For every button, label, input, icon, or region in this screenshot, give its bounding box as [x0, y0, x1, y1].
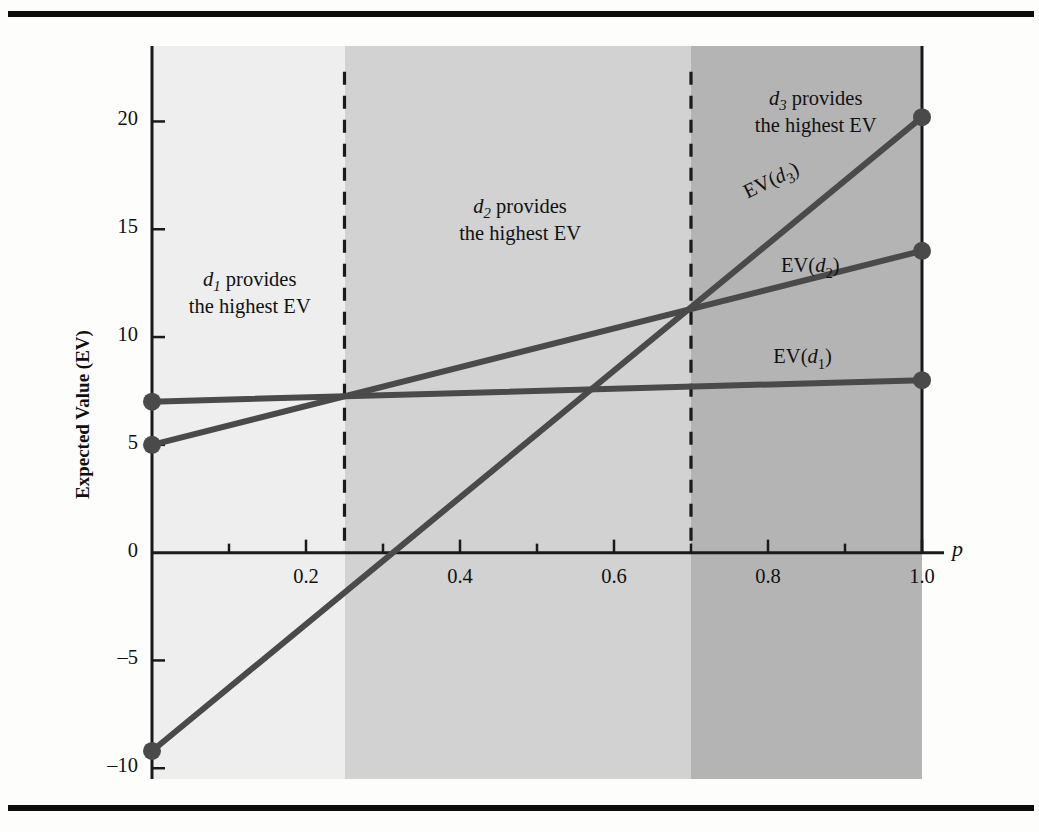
endpoint-dot-right-EVd3 — [913, 108, 931, 126]
y-tick-label: 5 — [128, 431, 138, 454]
label-ev-d1-suffix: ) — [825, 345, 832, 367]
annotation-d2-subscript: 2 — [484, 205, 491, 221]
endpoint-dot-left-EVd1 — [143, 393, 161, 411]
chart-svg — [152, 46, 922, 779]
endpoint-dot-right-EVd1 — [913, 371, 931, 389]
label-ev-d1: EV(d1) — [773, 345, 832, 372]
x-tick-label: 0.6 — [601, 565, 627, 588]
endpoint-dot-left-EVd3 — [143, 742, 161, 760]
x-tick-label: 1.0 — [909, 565, 935, 588]
annotation-d1-symbol: d — [203, 268, 213, 290]
bottom-rule — [8, 805, 1034, 811]
y-axis-label: Expected Value (EV) — [72, 330, 94, 499]
label-ev-d1-sub: 1 — [818, 355, 825, 371]
x-tick-label: 0.8 — [755, 565, 781, 588]
annotation-d1-line2: the highest EV — [189, 295, 311, 317]
x-tick-label: 0.2 — [293, 565, 319, 588]
label-ev-d2-sub: 2 — [825, 265, 832, 281]
y-tick-label: 10 — [118, 323, 139, 346]
annotation-d3-symbol: d — [769, 87, 779, 109]
y-tick-label: 20 — [118, 107, 139, 130]
annotation-region-d2: d2 provides the highest EV — [459, 195, 581, 246]
x-tick-label: 0.4 — [447, 565, 473, 588]
y-tick-label: –5 — [118, 646, 139, 669]
annotation-d2-rest: provides — [491, 195, 567, 217]
annotation-d3-rest: provides — [787, 87, 863, 109]
label-ev-d2: EV(d2) — [781, 255, 840, 282]
annotation-d1-subscript: 1 — [213, 278, 220, 294]
annotation-d2-symbol: d — [473, 195, 483, 217]
label-ev-d2-suffix: ) — [833, 255, 840, 277]
endpoint-dot-right-EVd2 — [913, 242, 931, 260]
figure-container: d1 provides the highest EV d2 provides t… — [0, 0, 1039, 832]
y-tick-label: 15 — [118, 215, 139, 238]
label-ev-d2-prefix: EV( — [781, 255, 815, 277]
top-rule — [8, 11, 1034, 17]
annotation-d3-line2: the highest EV — [755, 114, 877, 136]
series-line-EVd1 — [152, 380, 922, 402]
endpoint-dot-left-EVd2 — [143, 436, 161, 454]
label-ev-d1-var: d — [807, 345, 817, 367]
y-tick-label: –10 — [107, 754, 138, 777]
y-tick-label: 0 — [128, 539, 138, 562]
label-ev-d1-prefix: EV( — [773, 345, 807, 367]
annotation-region-d3: d3 provides the highest EV — [755, 87, 877, 138]
annotation-region-d1: d1 provides the highest EV — [189, 268, 311, 319]
annotation-d3-subscript: 3 — [779, 97, 786, 113]
label-ev-d2-var: d — [815, 255, 825, 277]
plot-area: d1 provides the highest EV d2 provides t… — [152, 46, 922, 779]
annotation-d1-rest: provides — [221, 268, 297, 290]
annotation-d2-line2: the highest EV — [459, 222, 581, 244]
x-axis-label: p — [952, 536, 963, 562]
